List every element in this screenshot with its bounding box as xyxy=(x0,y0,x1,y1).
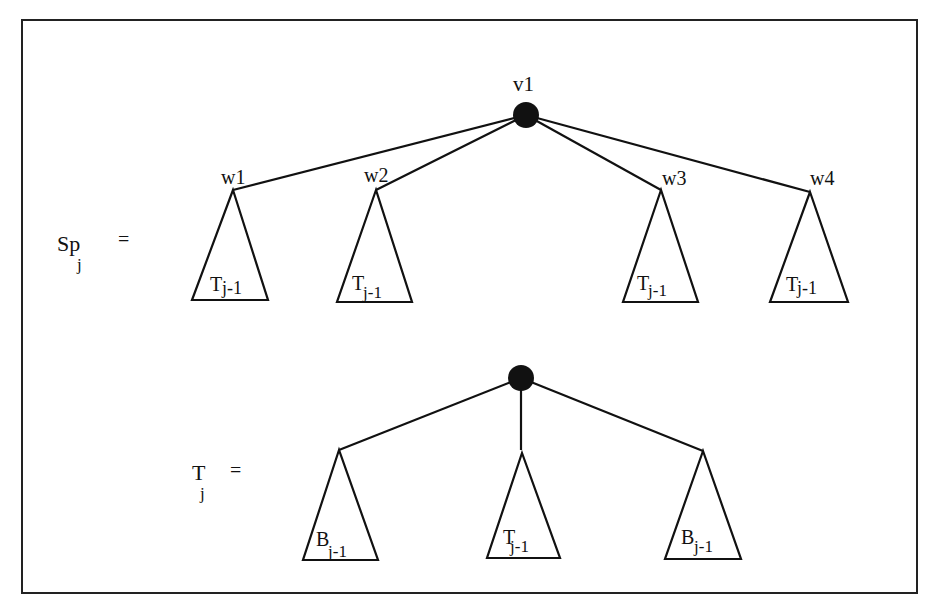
subtree-label-right-base: B xyxy=(681,526,694,548)
lhs-sp-sub: j xyxy=(76,255,82,274)
lhs-t-sub: j xyxy=(199,484,205,503)
subtree-label-w2-sub: j-1 xyxy=(362,283,382,302)
node-label-v1: v1 xyxy=(513,72,534,96)
subtree-label-w3-sub: j-1 xyxy=(647,281,667,300)
node-label-w3: w3 xyxy=(662,167,686,189)
equals-sign: = xyxy=(230,459,241,481)
equation-t-j: T j = B j-1 T j-1 B j-1 xyxy=(192,365,741,561)
lhs-sp-base: Sp xyxy=(57,231,80,256)
subtree-label-right-sub: j-1 xyxy=(693,537,713,556)
subtree-label-w4-sub: j-1 xyxy=(796,278,817,298)
edge-v1-w2 xyxy=(376,115,526,190)
node-label-w2: w2 xyxy=(364,164,388,186)
equation-sp-j: Sp j = v1 w1 T j-1 w2 T j-1 w3 T j-1 w4 … xyxy=(57,72,848,302)
lhs-t-base: T xyxy=(192,460,206,485)
edge-v1-w3 xyxy=(526,115,661,190)
tree-diagram: Sp j = v1 w1 T j-1 w2 T j-1 w3 T j-1 w4 … xyxy=(0,0,941,615)
root-node-v1 xyxy=(513,102,539,128)
equals-sign: = xyxy=(118,228,129,250)
edge-root-right xyxy=(521,378,703,451)
edge-root-left xyxy=(339,378,521,450)
subtree-label-w1-base: T xyxy=(210,273,222,295)
diagram-frame xyxy=(22,20,917,593)
subtree-label-left-sub: j-1 xyxy=(327,542,347,561)
node-label-w1: w1 xyxy=(221,166,245,188)
root-node-t-j xyxy=(508,365,534,391)
node-label-w4: w4 xyxy=(810,167,834,189)
subtree-label-w1-sub: j-1 xyxy=(221,278,242,298)
subtree-label-middle-sub: j-1 xyxy=(509,537,529,556)
